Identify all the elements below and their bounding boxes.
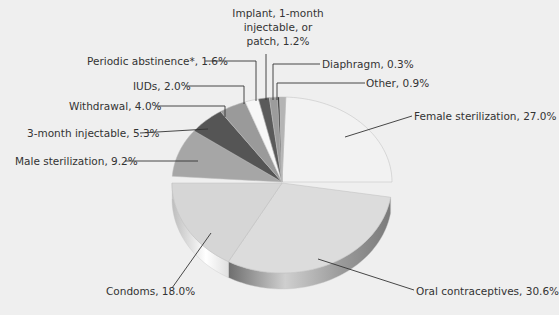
label-implant: Implant, 1-month injectable, or patch, 1… [228,6,328,48]
label-condoms: Condoms, 18.0% [106,284,195,298]
label-oral-contraceptives: Oral contraceptives, 30.6% [416,284,559,298]
label-withdrawal: Withdrawal, 4.0% [69,99,162,113]
label-iuds: IUDs, 2.0% [133,79,191,93]
label-3-month-injectable: 3-month injectable, 5.3% [27,126,160,140]
leader-diaphragm [273,64,320,100]
label-other: Other, 0.9% [366,76,429,90]
pie-slices [172,97,392,273]
label-periodic-abstinence: Periodic abstinence*, 1.6% [87,54,228,68]
label-male-sterilization: Male sterilization, 9.2% [15,154,138,168]
label-diaphragm: Diaphragm, 0.3% [322,57,414,71]
pie-slice [282,97,392,182]
leader-iuds [185,86,244,104]
label-female-sterilization: Female sterilization, 27.0% [414,109,557,123]
